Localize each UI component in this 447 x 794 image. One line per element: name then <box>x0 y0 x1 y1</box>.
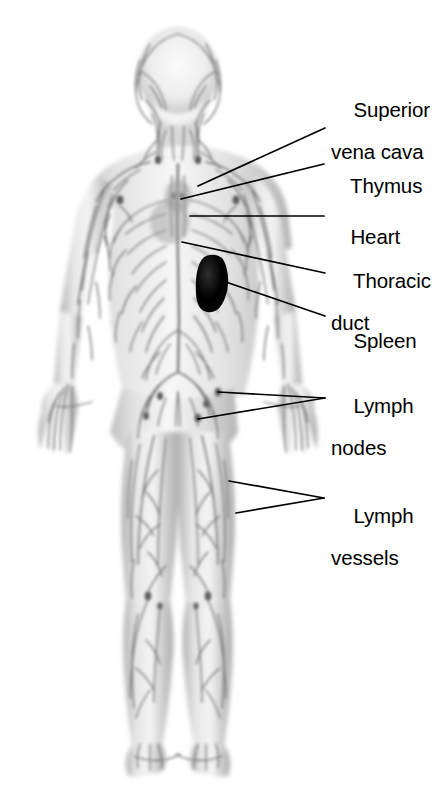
leader-lymph-vessels-b <box>236 498 324 513</box>
label-thoracic-duct-line1: Thoracic <box>353 269 431 292</box>
label-superior-vena-cava-line1: Superior <box>353 98 430 121</box>
body-silhouette <box>38 27 317 776</box>
label-lymph-nodes: Lymph nodes <box>331 374 414 500</box>
label-lymph-vessels: Lymph vessels <box>331 484 414 610</box>
label-lymph-nodes-line2: nodes <box>331 437 414 458</box>
label-spleen: Spleen <box>331 309 417 372</box>
label-spleen-line1: Spleen <box>353 329 416 352</box>
label-heart-line1: Heart <box>350 225 400 248</box>
lymphatic-system-diagram: Superior vena cava Thymus Heart Thoracic… <box>0 0 447 794</box>
leader-lymph-vessels-a <box>229 481 324 498</box>
label-lymph-vessels-line2: vessels <box>331 547 414 568</box>
label-thymus-line1: Thymus <box>350 174 422 197</box>
label-lymph-vessels-line1: Lymph <box>353 504 413 527</box>
label-lymph-nodes-line1: Lymph <box>353 394 413 417</box>
